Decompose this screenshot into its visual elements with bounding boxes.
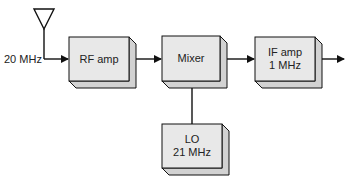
mixer-label: Mixer xyxy=(162,36,220,81)
rf-amp-label: RF amp xyxy=(69,37,129,81)
input-frequency-label: 20 MHz xyxy=(4,53,44,66)
if-amp-label-line2: 1 MHz xyxy=(269,59,301,72)
rf-amp-label-line1: RF amp xyxy=(79,53,118,66)
if-amp-label: IF amp 1 MHz xyxy=(255,37,315,81)
lo-label-line1: LO xyxy=(185,133,200,146)
antenna-icon xyxy=(34,9,54,59)
mixer-label-line1: Mixer xyxy=(178,52,205,65)
lo-label: LO 21 MHz xyxy=(162,124,222,168)
lo-label-line2: 21 MHz xyxy=(173,146,211,159)
if-amp-label-line1: IF amp xyxy=(268,46,302,59)
